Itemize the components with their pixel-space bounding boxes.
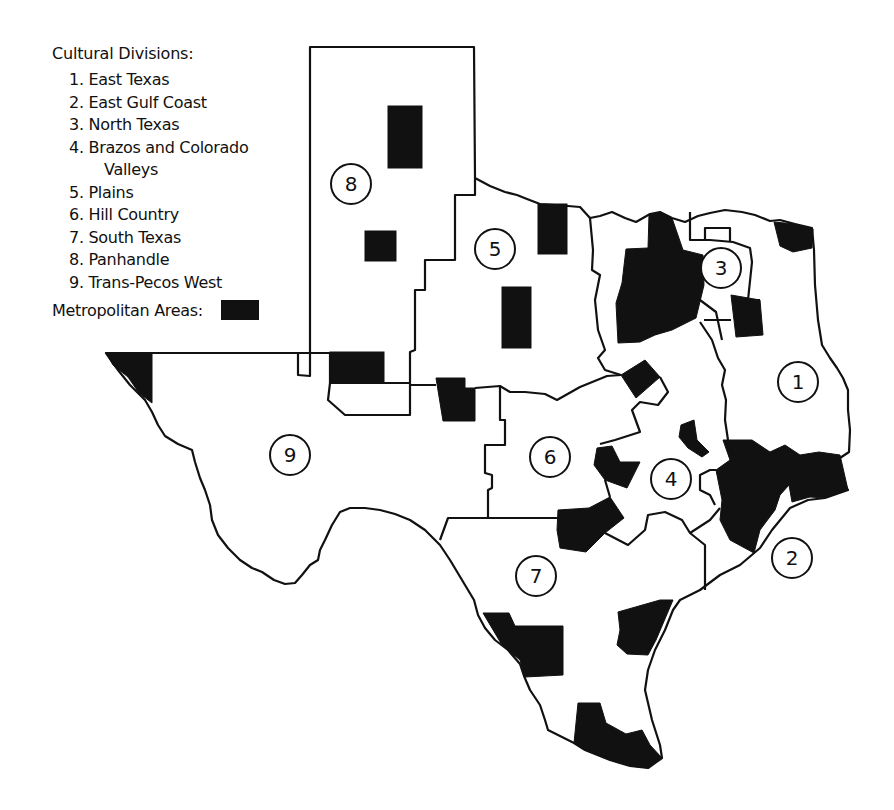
legend-item-north-texas: 3. North Texas — [69, 114, 259, 137]
map-legend: Cultural Divisions: 1. East Texas 2. Eas… — [52, 44, 259, 320]
legend-item-east-gulf-coast: 2. East Gulf Coast — [69, 92, 259, 115]
metro-legend: Metropolitan Areas: — [52, 300, 259, 320]
svg-text:7: 7 — [530, 564, 543, 588]
division-list: 1. East Texas 2. East Gulf Coast 3. Nort… — [52, 69, 259, 294]
legend-item-east-texas: 1. East Texas — [69, 69, 259, 92]
region-label-9: 9 — [270, 435, 310, 475]
svg-text:1: 1 — [792, 370, 805, 394]
legend-item-panhandle: 8. Panhandle — [69, 249, 259, 272]
region-label-4: 4 — [651, 459, 691, 499]
metro-waco — [621, 360, 660, 398]
region-label-7: 7 — [516, 556, 556, 596]
legend-item-trans-pecos: 9. Trans-Pecos West — [69, 272, 259, 295]
svg-text:8: 8 — [345, 172, 358, 196]
svg-text:9: 9 — [284, 443, 297, 467]
metro-brownsville-mcallen — [574, 703, 662, 768]
svg-text:4: 4 — [665, 467, 678, 491]
metro-wichita-falls — [538, 204, 567, 254]
region-label-5: 5 — [475, 229, 515, 269]
legend-item-plains: 5. Plains — [69, 182, 259, 205]
metro-label: Metropolitan Areas: — [52, 301, 203, 320]
metro-san-angelo — [436, 378, 475, 421]
metro-san-antonio — [557, 497, 624, 552]
metro-laredo — [483, 613, 563, 677]
svg-text:3: 3 — [715, 256, 728, 280]
metro-el-paso — [106, 353, 152, 403]
svg-text:5: 5 — [489, 237, 502, 261]
legend-title: Cultural Divisions: — [52, 44, 259, 63]
region-label-2: 2 — [772, 538, 812, 578]
svg-text:2: 2 — [786, 546, 799, 570]
metro-austin — [594, 446, 640, 488]
region-label-3: 3 — [701, 248, 741, 288]
region-label-8: 8 — [331, 164, 371, 204]
legend-item-south-texas: 7. South Texas — [69, 227, 259, 250]
metro-lubbock-area — [365, 231, 396, 261]
svg-text:6: 6 — [544, 445, 557, 469]
region-label-6: 6 — [530, 437, 570, 477]
metro-tyler-north — [731, 295, 763, 337]
metro-amarillo — [388, 106, 422, 168]
metro-abilene — [502, 287, 531, 348]
legend-item-brazos-colorado: 4. Brazos and ColoradoValleys — [69, 137, 259, 182]
metro-corpus-christi — [617, 600, 673, 655]
metro-midland — [330, 352, 384, 383]
metro-swatch-icon — [221, 300, 259, 320]
metro-bryan — [679, 420, 709, 457]
legend-item-hill-country: 6. Hill Country — [69, 204, 259, 227]
region-label-1: 1 — [778, 362, 818, 402]
